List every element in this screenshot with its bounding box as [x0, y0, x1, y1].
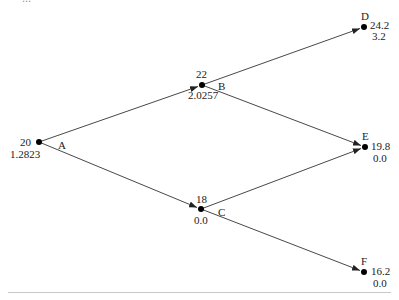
edge-b-e: [202, 85, 361, 146]
edge-a-b: [39, 87, 198, 143]
node-a-price: 20: [20, 137, 31, 148]
node-a-label: A: [58, 140, 66, 151]
node-c-dot: [198, 206, 204, 212]
node-f-label: F: [361, 256, 367, 267]
node-d-label: D: [361, 11, 369, 22]
node-e-dot: [362, 144, 368, 150]
node-f-value: 0.0: [373, 278, 387, 289]
node-d-value: 3.2: [372, 31, 386, 42]
node-b-label: B: [218, 81, 225, 92]
node-d-dot: [361, 24, 367, 30]
node-b-price: 22: [196, 69, 207, 80]
node-c-value: 0.0: [194, 215, 208, 226]
node-b-dot: [199, 82, 205, 88]
edge-c-e: [201, 149, 361, 210]
node-f-dot: [361, 269, 367, 275]
node-a-value: 1.2823: [10, 149, 40, 160]
node-b-value: 2.0257: [188, 90, 218, 101]
node-c-label: C: [218, 207, 225, 218]
edge-b-d: [202, 29, 360, 86]
node-a-dot: [36, 139, 42, 145]
node-e-value: 0.0: [373, 153, 387, 164]
node-e-price: 19.8: [371, 141, 390, 152]
edge-a-c: [39, 142, 197, 208]
node-c-price: 18: [196, 194, 207, 205]
node-f-price: 16.2: [371, 266, 390, 277]
node-e-label: E: [362, 131, 369, 142]
bottom-divider: [8, 292, 391, 293]
edge-c-f: [201, 209, 360, 271]
